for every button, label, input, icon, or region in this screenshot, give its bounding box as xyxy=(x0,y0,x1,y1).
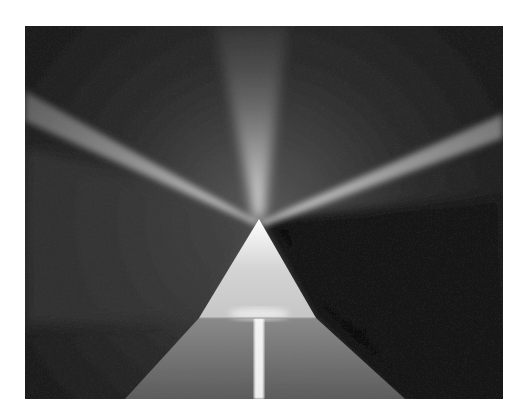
prism-artwork xyxy=(25,26,503,399)
artwork-frame xyxy=(25,26,503,399)
